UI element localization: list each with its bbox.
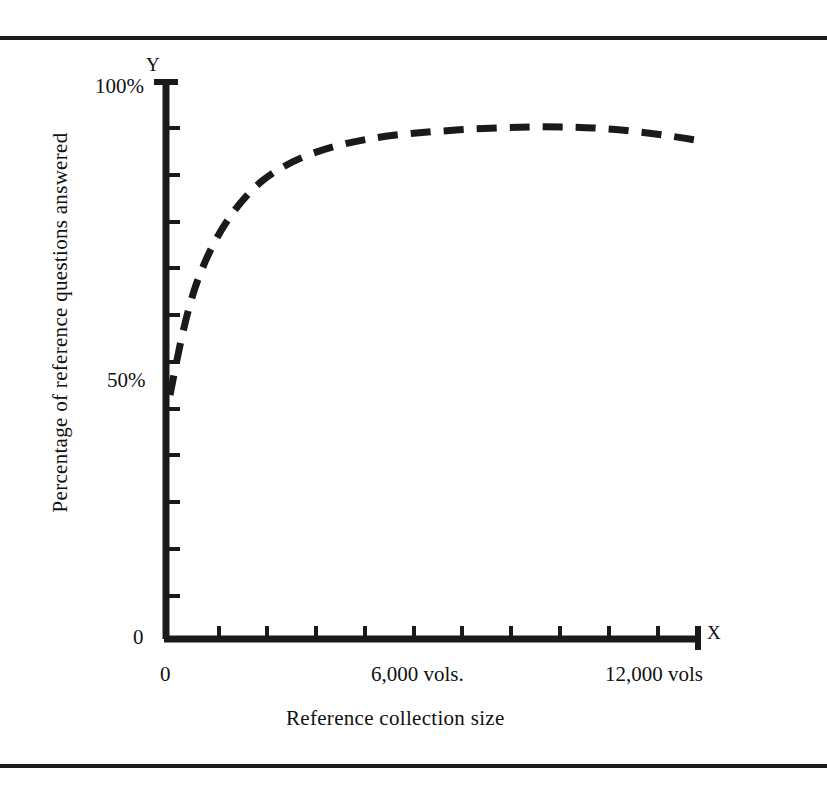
y-axis-title: Percentage of reference questions answer… bbox=[48, 133, 72, 513]
x-tick-label-0: 0 bbox=[160, 662, 171, 687]
x-tick-label-12000: 12,000 vols bbox=[605, 662, 703, 687]
figure-container: Y X 100% 50% 0 0 6,000 vols. 12,000 vols… bbox=[0, 0, 827, 785]
y-tick-label-50: 50% bbox=[107, 368, 146, 393]
y-axis-title-wrapper: Percentage of reference questions answer… bbox=[48, 113, 73, 533]
x-tick-label-6000: 6,000 vols. bbox=[371, 662, 464, 687]
y-axis-name: Y bbox=[146, 54, 160, 76]
y-tick-label-100: 100% bbox=[95, 74, 144, 99]
data-curve bbox=[170, 127, 695, 395]
y-tick-label-0: 0 bbox=[133, 625, 144, 650]
x-axis-name: X bbox=[707, 622, 721, 644]
x-axis-title: Reference collection size bbox=[286, 706, 505, 731]
